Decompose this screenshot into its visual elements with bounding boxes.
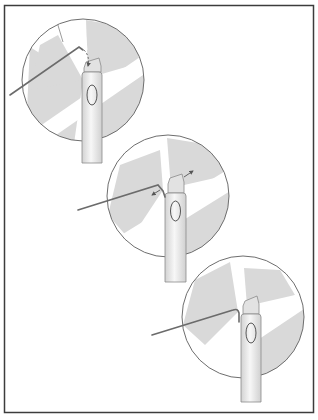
- step-2-toothbrush-handle: [165, 174, 186, 282]
- step-1-panel: [10, 19, 150, 168]
- instruction-figure: [0, 0, 318, 420]
- step-1-toothbrush-handle: [82, 58, 102, 163]
- illustration-canvas: [0, 0, 318, 420]
- step-3-toothbrush-handle: [241, 296, 261, 402]
